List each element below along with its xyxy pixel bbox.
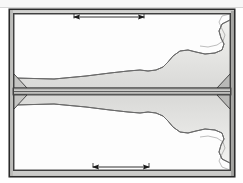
- top-margin-strip: [0, 0, 243, 8]
- lower-half-group: [14, 95, 230, 170]
- upper-half-group: [14, 14, 230, 88]
- drawing-canvas: [0, 0, 243, 183]
- technical-drawing-svg: [0, 0, 243, 183]
